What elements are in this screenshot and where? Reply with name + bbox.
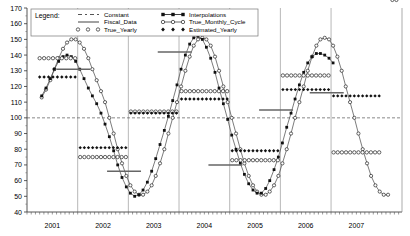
marker-filled-square (104, 123, 107, 126)
marker-open-circle (264, 193, 267, 196)
marker-filled-square (311, 55, 314, 58)
marker-open-circle (99, 90, 102, 93)
y-tick-label: 80 (14, 146, 22, 153)
marker-open-circle (336, 151, 339, 154)
marker-filled-square (108, 135, 111, 138)
marker-filled-square (222, 102, 225, 105)
marker-open-circle (60, 57, 63, 60)
marker-filled-square (281, 142, 284, 145)
marker-open-circle (124, 155, 127, 158)
marker-filled-square (184, 54, 187, 57)
marker-open-circle (323, 74, 326, 77)
marker-open-circle (332, 151, 335, 154)
legend-label: Estimated_Yearly (189, 26, 238, 33)
marker-open-circle (184, 89, 187, 92)
marker-open-circle (373, 151, 376, 154)
marker-open-circle (306, 74, 309, 77)
marker-open-circle (196, 38, 199, 41)
marker-open-circle (225, 89, 228, 92)
marker-filled-square (171, 99, 174, 102)
marker-filled-square (302, 71, 305, 74)
marker-filled-square (125, 185, 128, 188)
marker-filled-square (294, 98, 297, 101)
marker-open-circle (323, 36, 326, 39)
marker-open-circle (217, 69, 220, 72)
y-tick-label: 40 (14, 209, 22, 216)
marker-filled-square (188, 43, 191, 46)
marker-filled-square (45, 87, 48, 90)
marker-filled-square (142, 189, 145, 192)
marker-open-circle (179, 85, 182, 88)
marker-filled-square (328, 57, 331, 60)
marker-open-circle (344, 151, 347, 154)
y-tick-label: 50 (14, 193, 22, 200)
marker-open-circle (281, 162, 284, 165)
marker-open-circle (87, 155, 90, 158)
marker-open-circle (196, 89, 199, 92)
marker-open-circle (103, 155, 106, 158)
marker-open-circle (251, 184, 254, 187)
marker-open-circle (205, 38, 208, 41)
marker-open-circle (125, 174, 128, 177)
marker-open-circle (56, 57, 59, 60)
marker-open-circle (205, 89, 208, 92)
marker-open-circle (361, 151, 364, 154)
marker-filled-square (138, 193, 141, 196)
marker-open-circle (268, 159, 271, 162)
marker-open-circle (201, 89, 204, 92)
marker-open-circle (163, 148, 166, 151)
marker-open-circle (65, 57, 68, 60)
marker-open-circle (294, 74, 297, 77)
x-tick-label: 2002 (95, 222, 111, 229)
marker-open-circle (47, 57, 50, 60)
marker-open-circle (369, 151, 372, 154)
marker-filled-square (332, 62, 335, 65)
marker-open-circle (357, 132, 360, 135)
legend-label: True_Yearly (104, 26, 138, 33)
marker-filled-square (100, 112, 103, 115)
marker-open-circle (181, 20, 184, 23)
y-tick-label: 160 (10, 20, 22, 27)
x-tick-label: 2006 (298, 222, 314, 229)
marker-open-circle (213, 89, 216, 92)
marker-filled-square (57, 60, 60, 63)
x-tick-label: 2003 (146, 222, 162, 229)
marker-open-circle (213, 55, 216, 58)
marker-open-circle (327, 38, 330, 41)
marker-open-circle (340, 69, 343, 72)
marker-open-circle (272, 159, 275, 162)
marker-open-circle (302, 74, 305, 77)
marker-open-circle (61, 47, 64, 50)
marker-open-circle (108, 116, 111, 119)
y-tick-label: 100 (10, 114, 22, 121)
marker-open-circle (377, 151, 380, 154)
marker-open-circle (239, 159, 242, 162)
marker-open-circle (230, 116, 233, 119)
marker-filled-square (256, 192, 259, 195)
marker-open-circle (276, 159, 279, 162)
marker-filled-square (247, 182, 250, 185)
marker-open-circle (374, 184, 377, 187)
marker-open-circle (129, 184, 132, 187)
marker-filled-square (180, 68, 183, 71)
marker-open-circle (289, 132, 292, 135)
marker-filled-square (277, 156, 280, 159)
marker-open-circle (65, 41, 68, 44)
x-tick-label: 2005 (247, 222, 263, 229)
marker-filled-square (176, 83, 179, 86)
marker-open-circle (251, 159, 254, 162)
marker-filled-square (66, 54, 69, 57)
marker-open-circle (365, 162, 368, 165)
marker-open-circle (302, 85, 305, 88)
marker-open-circle (268, 190, 271, 193)
marker-open-circle (78, 41, 81, 44)
marker-filled-square (161, 13, 164, 16)
marker-filled-square (129, 192, 132, 195)
marker-filled-square (214, 71, 217, 74)
marker-filled-square (201, 38, 204, 41)
legend-label: True_Monthly_Cycle (189, 18, 246, 25)
marker-open-circle (82, 47, 85, 50)
x-tick-label: 2004 (197, 222, 213, 229)
marker-open-circle (91, 155, 94, 158)
marker-open-circle (231, 159, 234, 162)
